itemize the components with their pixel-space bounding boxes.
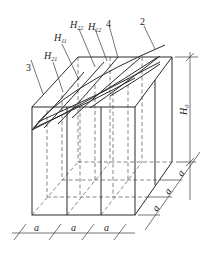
width-label-3: a: [104, 222, 109, 233]
label-h11: H11: [53, 32, 67, 44]
depth-dimension: a a a: [138, 152, 200, 230]
box-outline: [32, 57, 172, 215]
depth-label-2: a: [162, 186, 174, 196]
label-h22: H22: [69, 19, 83, 31]
callout-3: 3: [26, 62, 31, 73]
callout-2: 2: [140, 16, 145, 27]
label-h0: H0: [178, 105, 190, 116]
label-h21: H21: [43, 50, 57, 62]
depth-label-3: a: [175, 168, 187, 178]
diagram-canvas: 3 H21 H11 H22 H12 4 2 H0 a a a a a a: [0, 0, 212, 257]
width-label-1: a: [34, 222, 39, 233]
height-dimension: H0: [175, 52, 198, 200]
width-label-2: a: [71, 222, 76, 233]
callout-4: 4: [106, 18, 111, 29]
depth-label-1: a: [150, 203, 162, 213]
label-h12: H12: [87, 21, 101, 33]
width-dimension: a a a: [12, 222, 135, 240]
